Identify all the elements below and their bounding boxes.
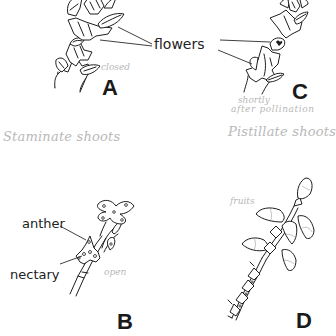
label-nectary: nectary	[10, 268, 60, 281]
leader-flowers-a-upper	[118, 27, 152, 44]
annotation-open: open	[104, 268, 126, 277]
label-flowers: flowers	[154, 37, 205, 51]
annotation-closed: closed	[101, 63, 130, 72]
label-anther: anther	[22, 217, 65, 230]
heading-pistillate-shoots: Pistillate shoots	[228, 125, 336, 138]
leader-lines	[60, 27, 270, 264]
botanical-figure: flowers closed A C shortly after pollina…	[0, 0, 336, 336]
heading-staminate-shoots: Staminate shoots	[3, 130, 120, 143]
panel-letter-d: D	[296, 310, 312, 332]
leader-flowers-c-lower	[218, 50, 252, 64]
shoot-drawing-b	[70, 200, 134, 296]
panel-letter-a: A	[102, 77, 118, 99]
panel-letter-b: B	[117, 311, 133, 333]
annotation-fruits: fruits	[230, 197, 255, 206]
leader-flowers-c-upper	[220, 40, 270, 42]
panel-letter-c: C	[292, 81, 308, 103]
leader-flowers-a-lower	[100, 40, 152, 46]
annotation-after-pollination: after pollination	[231, 105, 315, 114]
